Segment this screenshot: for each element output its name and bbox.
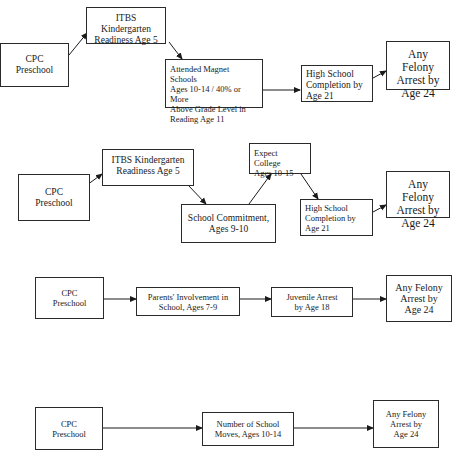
node-parents-involvement: Parents' Involvement in School, Ages 7-9	[136, 287, 240, 316]
node-school-commitment: School Commitment, Ages 9-10	[181, 204, 276, 243]
node-attended-magnet-schools: Attended Magnet Schools Ages 10-14 / 40%…	[165, 59, 263, 108]
node-any-felony-arrest: Any Felony Arrest by Age 24	[386, 171, 450, 218]
node-high-school-completion: High School Completion by Age 21	[301, 65, 373, 102]
node-any-felony-arrest: Any Felony Arrest by Age 24	[386, 275, 452, 322]
node-cpc-preschool: CPC Preschool	[35, 277, 104, 319]
node-any-felony-arrest: Any Felony Arrest by Age 24	[386, 41, 450, 90]
node-high-school-completion: High School Completion by Age 21	[300, 199, 373, 236]
node-cpc-preschool: CPC Preschool	[18, 174, 90, 221]
path-diagram-figure: CPC Preschool ITBS Kindergarten Readines…	[0, 0, 456, 462]
arrow-cpc-to-itbs	[69, 33, 87, 55]
arrow-hs-to-felony	[373, 205, 386, 212]
node-juvenile-arrest: Juvenile Arrest by Age 18	[271, 287, 353, 317]
node-cpc-preschool: CPC Preschool	[35, 407, 103, 450]
node-itbs-kindergarten-readiness: ITBS Kindergarten Readiness Age 5	[102, 149, 194, 186]
arrow-commitment-to-college	[249, 174, 271, 204]
node-cpc-preschool: CPC Preschool	[0, 43, 69, 87]
node-number-of-school-moves: Number of School Moves, Ages 10-14	[202, 412, 294, 446]
arrow-hs-to-felony	[373, 71, 386, 78]
figure-caption	[70, 453, 390, 462]
arrow-itbs-to-magnet	[169, 42, 182, 59]
node-itbs-kindergarten-readiness: ITBS Kindergarten Readiness Age 5	[86, 7, 166, 44]
node-any-felony-arrest: Any Felony Arrest by Age 24	[373, 400, 439, 448]
node-expect-college: Expect College Ages 10-15	[249, 143, 311, 174]
arrow-itbs-to-commitment	[188, 185, 206, 204]
